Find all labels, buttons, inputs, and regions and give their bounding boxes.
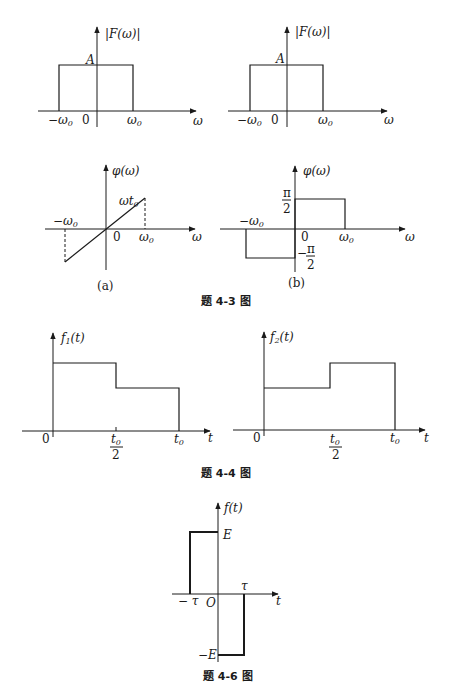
f2-steps [264,363,395,430]
subfig-label-b: (b) [288,276,305,290]
positive-pulse [190,532,218,594]
neg-w0: −ω0 [53,214,78,229]
y-label: f2(t) [269,330,294,345]
fig44-f1-plot: f1(t) 0 t0 2 t0 t [22,331,213,462]
y-label: |F(ω)| [105,27,141,41]
y-label: |F(ω)| [295,25,331,39]
neg-w0: −ω0 [237,113,262,128]
tau-label: τ [241,579,248,593]
level-A: A [275,52,285,66]
fig43b-phase-plot: φ(ω) π 2 −ω0 0 ω0 ω − π 2 (b) [220,164,415,290]
caption-4-3: 题 4-3 图 [201,295,251,308]
neg-w0: −ω0 [48,113,73,128]
pi-over-2-num: π [283,186,291,200]
origin: 0 [113,230,121,244]
pi-over-2-den: 2 [283,202,291,216]
pos-w0: ω0 [339,230,354,245]
magnitude-rect [59,65,133,111]
caption-4-4: 题 4-4 图 [201,467,251,480]
fig44-f2-plot: f2(t) 0 t0 2 t0 t [233,330,429,462]
pos-w0: ω0 [127,113,142,128]
pos-w0: ω0 [318,113,333,128]
y-label: f(t) [223,501,243,515]
half-t0-den: 2 [112,448,120,462]
x-label: t [208,431,213,445]
half-t0-num: t0 [111,432,121,447]
pos-w0: ω0 [139,230,154,245]
t0-label: t0 [390,431,400,446]
neg-pi-over-2-num: π [307,242,315,256]
fig43a-phase-plot: φ(ω) ωt0 −ω0 0 ω0 ω (a) [45,164,202,293]
neg-w0: −ω0 [239,214,264,229]
neg-tau-label: − τ [178,594,199,608]
origin: 0 [82,113,90,127]
t0-label: t0 [174,432,184,447]
half-t0-num: t0 [330,432,340,447]
neg-sign: − [297,246,307,260]
x-label: t [276,594,281,608]
level-A: A [85,53,95,67]
figure-canvas: |F(ω)| A −ω0 0 ω0 ω |F(ω)| A −ω0 0 ω0 ω … [0,0,455,691]
negE-label: −E [198,648,217,662]
fig43a-magnitude-plot: |F(ω)| A −ω0 0 ω0 ω [38,27,203,128]
y-label: φ(ω) [303,164,331,178]
y-label: f1(t) [60,331,85,346]
negative-pulse [218,594,244,655]
origin: O [206,596,216,610]
y-label: φ(ω) [112,164,140,178]
origin: 0 [42,432,50,446]
x-label: ω [193,114,203,128]
origin: 0 [271,113,279,127]
half-t0-den: 2 [332,448,340,462]
x-label: ω [192,230,202,244]
x-label: t [424,431,429,445]
fig46-plot: f(t) E −E − τ O τ t [172,501,281,662]
fig43b-magnitude-plot: |F(ω)| A −ω0 0 ω0 ω [228,25,394,128]
caption-4-6: 题 4-6 图 [203,670,253,683]
x-label: ω [384,113,394,127]
f1-steps [53,363,179,431]
origin: 0 [253,431,261,445]
subfig-label-a: (a) [97,279,114,293]
x-label: ω [405,230,415,244]
neg-pi-over-2-den: 2 [307,258,315,272]
E-label: E [222,528,232,542]
slope-label: ωt0 [119,194,139,209]
